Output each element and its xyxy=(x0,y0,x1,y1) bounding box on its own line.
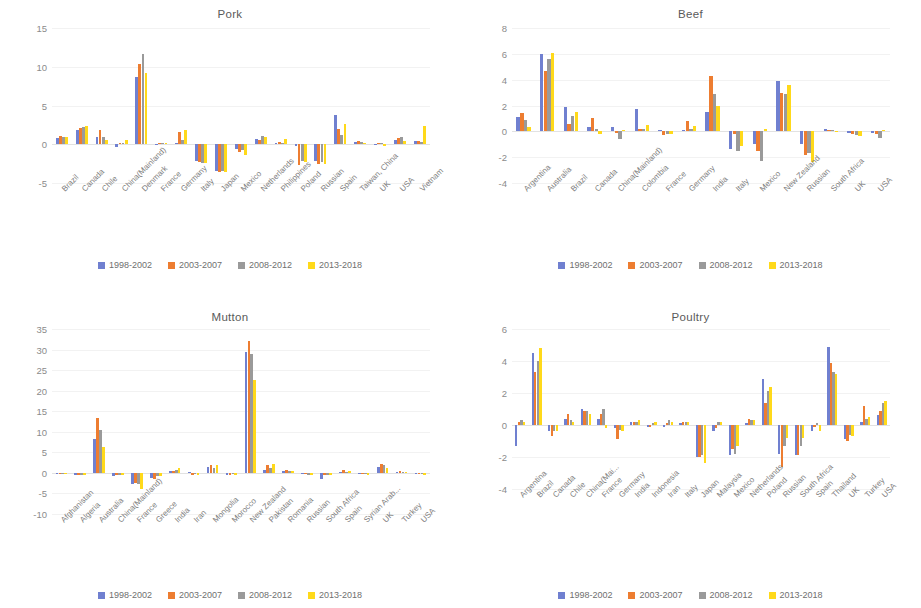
bar xyxy=(835,131,838,132)
y-axis-tick-label: 15 xyxy=(36,23,47,34)
legend-item[interactable]: 2003-2007 xyxy=(628,260,682,270)
bar xyxy=(324,144,327,164)
legend-swatch xyxy=(168,592,175,599)
legend-item[interactable]: 2008-2012 xyxy=(699,590,753,600)
legend-item[interactable]: 2003-2007 xyxy=(168,590,222,600)
bar xyxy=(165,143,168,144)
bar xyxy=(669,131,672,134)
y-axis-tick-label: 6 xyxy=(502,324,507,335)
bar xyxy=(556,425,558,431)
plot-area-beef: -4-202468ArgentinaAustraliaBrazilCanadaC… xyxy=(512,28,890,183)
legend-swatch xyxy=(168,262,175,269)
bar xyxy=(178,468,181,473)
bar xyxy=(618,131,621,139)
bar xyxy=(386,468,389,473)
legend-item[interactable]: 2008-2012 xyxy=(699,260,753,270)
y-axis-tick-label: 5 xyxy=(42,100,47,111)
y-axis-tick-label: 8 xyxy=(502,23,507,34)
bar xyxy=(786,425,788,438)
legend-item[interactable]: 1998-2002 xyxy=(558,590,612,600)
bar xyxy=(882,130,885,131)
bar xyxy=(344,124,347,144)
legend-swatch xyxy=(98,262,105,269)
bar xyxy=(819,425,821,431)
y-axis-tick-label: 15 xyxy=(36,406,47,417)
bar xyxy=(125,140,128,144)
bar xyxy=(244,144,247,155)
legend-item[interactable]: 2013-2018 xyxy=(308,260,362,270)
bar xyxy=(102,447,105,473)
legend-swatch xyxy=(558,592,565,599)
legend-item[interactable]: 2013-2018 xyxy=(769,590,823,600)
legend-swatch xyxy=(769,262,776,269)
legend-item[interactable]: 2003-2007 xyxy=(168,260,222,270)
bar xyxy=(64,473,67,474)
bar xyxy=(602,409,604,425)
legend-label: 2008-2012 xyxy=(710,260,753,270)
y-axis-tick-label: 5 xyxy=(42,447,47,458)
bar xyxy=(85,126,88,144)
legend-swatch xyxy=(98,592,105,599)
legend-item[interactable]: 2003-2007 xyxy=(628,590,682,600)
bar xyxy=(740,131,743,145)
bar xyxy=(115,144,118,146)
bar xyxy=(621,425,623,431)
legend-label: 2003-2007 xyxy=(179,260,222,270)
plot-area-mutton: -10-505101520253035AfghanistanAlgeriaAus… xyxy=(52,329,430,514)
bar xyxy=(367,473,370,475)
bar xyxy=(264,137,267,144)
bar xyxy=(423,473,426,475)
bar xyxy=(329,473,332,475)
bar xyxy=(671,422,673,425)
bar xyxy=(835,374,837,425)
legend-item[interactable]: 2008-2012 xyxy=(238,260,292,270)
legend-item[interactable]: 1998-2002 xyxy=(98,260,152,270)
legend-label: 2013-2018 xyxy=(319,590,362,600)
bar xyxy=(65,137,68,144)
chart-title-poultry: Poultry xyxy=(460,311,921,323)
legend-swatch xyxy=(769,592,776,599)
legend-swatch xyxy=(699,592,706,599)
legend-swatch xyxy=(628,592,635,599)
bar xyxy=(234,473,237,475)
bar xyxy=(121,473,124,475)
chart-title-mutton: Mutton xyxy=(0,311,460,323)
bar xyxy=(638,420,640,425)
bar xyxy=(851,425,853,436)
bar xyxy=(589,414,591,425)
bar xyxy=(769,387,771,425)
chart-title-pork: Pork xyxy=(0,8,460,20)
bar xyxy=(539,348,541,425)
bar xyxy=(184,130,187,144)
legend-swatch xyxy=(308,592,315,599)
bar xyxy=(787,85,790,132)
legend-swatch xyxy=(238,262,245,269)
panel-pork: Pork -5051015BrazilCanadaChileChina(Main… xyxy=(0,0,460,303)
legend-item[interactable]: 2013-2018 xyxy=(308,590,362,600)
bar xyxy=(572,422,574,425)
y-axis-tick-label: 2 xyxy=(502,388,507,399)
bar xyxy=(272,464,275,473)
y-axis-tick-label: -4 xyxy=(499,484,507,495)
bar xyxy=(622,130,625,131)
legend-item[interactable]: 1998-2002 xyxy=(558,260,612,270)
bar xyxy=(663,425,665,427)
bar xyxy=(729,131,732,149)
bar xyxy=(716,106,719,132)
bar xyxy=(753,420,755,425)
bar xyxy=(575,112,578,131)
bar xyxy=(348,471,351,473)
legend-label: 2013-2018 xyxy=(319,260,362,270)
bar xyxy=(878,131,881,137)
legend-label: 1998-2002 xyxy=(109,590,152,600)
y-axis-tick-label: 0 xyxy=(42,139,47,150)
legend-swatch xyxy=(308,262,315,269)
bar xyxy=(197,473,200,475)
legend-item[interactable]: 2013-2018 xyxy=(769,260,823,270)
legend-label: 2003-2007 xyxy=(639,260,682,270)
chart-title-beef: Beef xyxy=(460,8,921,20)
legend-swatch xyxy=(699,262,706,269)
legend-item[interactable]: 2008-2012 xyxy=(238,590,292,600)
bar xyxy=(646,125,649,131)
legend-item[interactable]: 1998-2002 xyxy=(98,590,152,600)
